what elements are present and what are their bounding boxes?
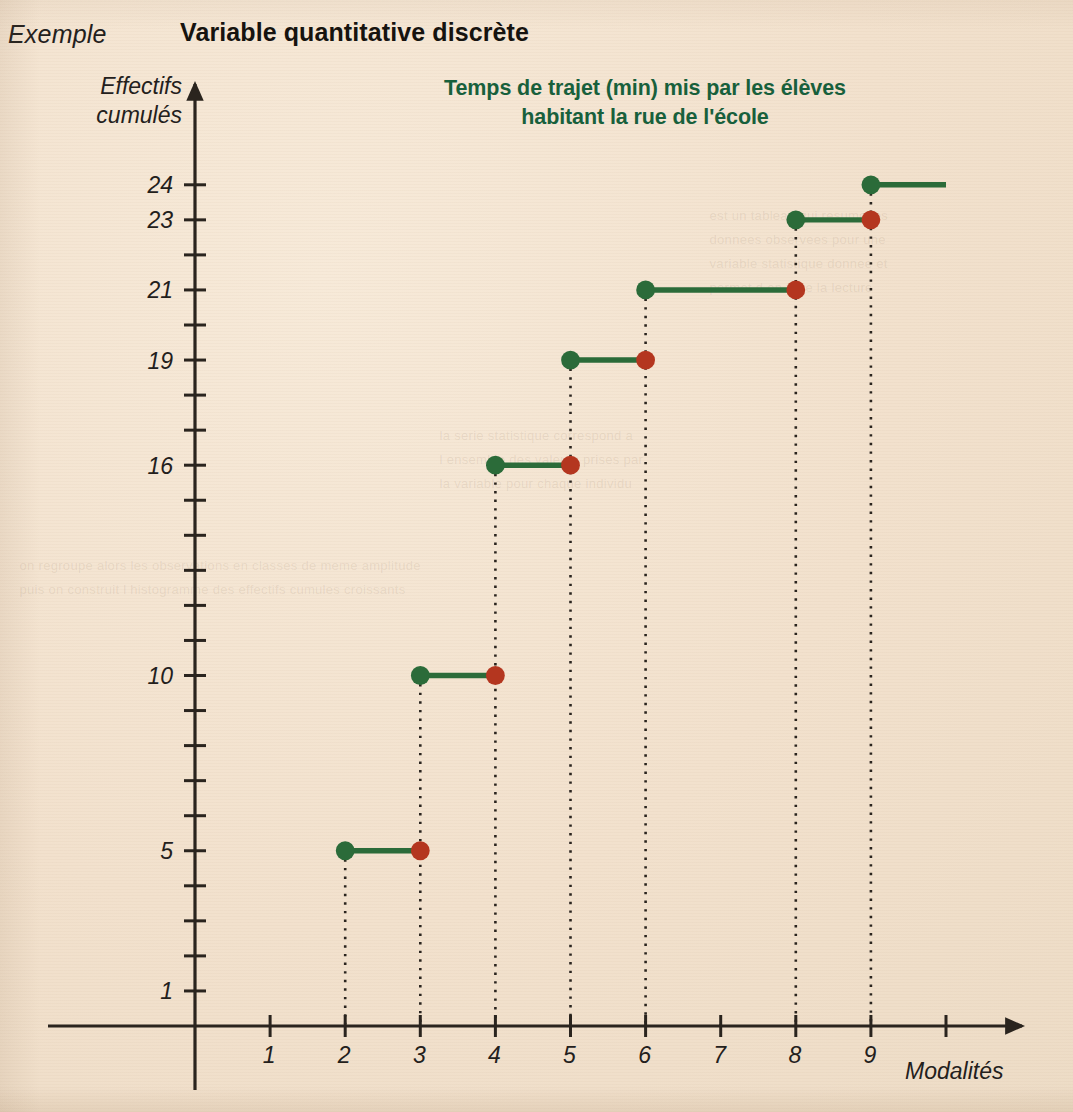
data-points-group	[336, 175, 881, 860]
x-tick-label-4: 4	[488, 1042, 501, 1068]
x-tick-label-6: 6	[638, 1042, 651, 1068]
data-point-open-x9-y23	[862, 210, 881, 229]
x-tick-label-9: 9	[864, 1042, 877, 1068]
x-tick-label-5: 5	[563, 1042, 576, 1068]
step-chart-plot: 15101619212324 123456789	[0, 0, 1073, 1112]
data-point-closed-x6-y21	[636, 281, 655, 300]
figure-page: est un tableau qui resume les donnees ob…	[0, 0, 1073, 1112]
data-point-closed-x2-y5	[336, 841, 355, 860]
x-tick-label-3: 3	[413, 1042, 426, 1068]
x-tick-label-1: 1	[263, 1042, 276, 1068]
y-tick-label-23: 23	[146, 207, 173, 233]
data-point-closed-x3-y10	[411, 666, 430, 685]
drop-lines-group	[345, 185, 871, 1026]
data-point-closed-x5-y19	[561, 351, 580, 370]
data-point-open-x3-y5	[411, 841, 430, 860]
data-point-open-x8-y21	[786, 281, 805, 300]
x-tick-label-2: 2	[337, 1042, 351, 1068]
y-tick-label-16: 16	[147, 453, 173, 479]
y-tick-label-5: 5	[160, 838, 173, 864]
axes-group	[48, 84, 1022, 1090]
y-tick-label-1: 1	[160, 978, 173, 1004]
data-point-closed-x4-y16	[486, 456, 505, 475]
data-point-open-x5-y16	[561, 456, 580, 475]
x-tick-label-8: 8	[788, 1042, 801, 1068]
y-tick-label-19: 19	[147, 348, 173, 374]
y-tick-label-21: 21	[146, 277, 173, 303]
x-tick-labels-group: 123456789	[263, 1042, 877, 1068]
data-point-closed-x9-y24	[862, 175, 881, 194]
data-point-open-x6-y19	[636, 351, 655, 370]
data-point-closed-x8-y23	[786, 210, 805, 229]
y-tick-labels-group: 15101619212324	[146, 172, 173, 1004]
data-point-open-x4-y10	[486, 666, 505, 685]
x-tick-label-7: 7	[713, 1042, 727, 1068]
y-tick-label-10: 10	[147, 663, 173, 689]
y-tick-label-24: 24	[146, 172, 173, 198]
